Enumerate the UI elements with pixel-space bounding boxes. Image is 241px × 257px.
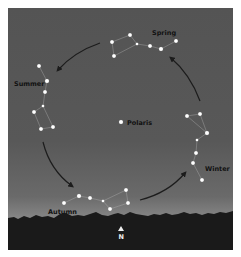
star-icon <box>32 110 37 115</box>
star-icon <box>191 161 196 166</box>
star-icon <box>200 178 205 183</box>
star-icon <box>62 201 67 206</box>
label-polaris: Polaris <box>127 119 152 127</box>
star-icon <box>174 39 179 44</box>
star-icon <box>88 196 93 201</box>
star-icon <box>158 46 163 51</box>
arrow-spring-to-summer <box>58 43 100 70</box>
label-spring: Spring <box>152 29 176 37</box>
star-icon <box>51 125 56 130</box>
star-icon <box>135 42 139 46</box>
label-winter: Winter <box>205 165 231 173</box>
star-icon <box>43 90 48 95</box>
label-north: N <box>119 233 124 241</box>
star-icon <box>148 44 153 49</box>
star-icon <box>126 201 131 206</box>
star-diagram: Spring Summer Polaris Winter Autumn N <box>0 0 241 257</box>
star-icon <box>128 33 133 38</box>
star-icon <box>39 127 44 132</box>
star-icon <box>204 130 209 135</box>
arrow-autumn-to-winter <box>140 173 185 200</box>
star-icon <box>124 188 129 193</box>
polaris-star-icon <box>118 119 123 124</box>
star-icon <box>195 138 199 142</box>
star-icon <box>198 112 203 117</box>
star-icon <box>185 114 190 119</box>
star-icon <box>44 78 49 83</box>
star-icon <box>101 199 105 203</box>
arrow-winter-to-spring <box>171 58 200 101</box>
star-icon <box>194 151 199 156</box>
stars-summer <box>32 64 56 132</box>
star-icon <box>41 104 45 108</box>
star-icon <box>110 40 115 45</box>
label-summer: Summer <box>14 80 45 88</box>
arrow-summer-to-autumn <box>43 142 72 186</box>
star-icon <box>37 64 42 69</box>
star-icon <box>76 193 81 198</box>
label-autumn: Autumn <box>48 208 77 216</box>
star-icon <box>108 207 113 212</box>
star-icon <box>112 54 117 59</box>
